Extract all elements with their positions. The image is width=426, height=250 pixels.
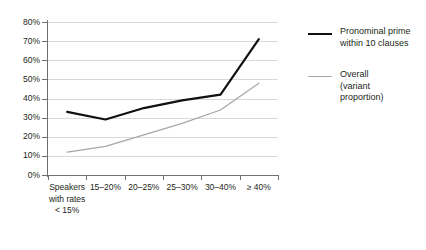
chart-figure: 0%10%20%30%40%50%60%70%80% Speakers with… xyxy=(0,0,426,250)
chart-legend: Pronominal prime within 10 clauses Overa… xyxy=(308,26,426,124)
x-axis-labels: Speakers with rates < 15%15–20%20–25%25–… xyxy=(0,182,426,242)
series-line-pronominal-prime xyxy=(67,39,259,119)
legend-label-overall: Overall (variant proportion) xyxy=(340,69,426,104)
x-axis-tick-label: ≥ 40% xyxy=(233,182,285,194)
legend-swatch-dark-line-icon xyxy=(308,33,332,35)
legend-label-pronominal-prime: Pronominal prime within 10 clauses xyxy=(340,26,426,49)
legend-swatch-light-line-icon xyxy=(308,76,332,77)
legend-item-overall: Overall (variant proportion) xyxy=(308,69,426,104)
legend-item-pronominal-prime: Pronominal prime within 10 clauses xyxy=(308,26,426,49)
